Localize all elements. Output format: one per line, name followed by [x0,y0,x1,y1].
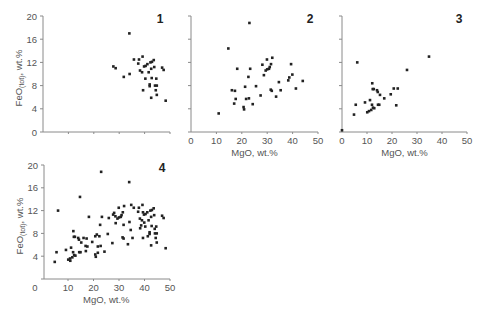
data-point [101,216,104,219]
data-point [142,211,145,214]
data-point [259,94,262,97]
data-point [162,69,165,72]
y-tick-label: 4 [33,251,38,262]
data-point [373,107,376,110]
data-point [155,232,158,235]
data-point [146,63,149,66]
data-point [263,74,266,77]
data-point [79,196,82,199]
data-point [70,246,73,249]
y-tick-label: 4 [32,103,37,114]
data-point [353,113,356,116]
data-point [162,217,165,220]
data-point [356,61,359,64]
data-point [78,238,81,241]
data-point [72,251,75,254]
x-tick-label: 0 [339,135,344,146]
data-point [94,255,97,258]
data-point [114,67,117,70]
x-tick-label: 10 [63,282,74,293]
data-point [94,235,97,238]
data-point [128,32,131,35]
scatter-chart-grid: 048121620FeO(tot), wt.%1 01020304050MgO,… [0,0,488,319]
data-point [127,243,130,246]
data-point [150,225,153,228]
data-point [150,216,153,219]
data-point [249,67,252,70]
data-point [65,249,68,252]
data-point [88,216,91,219]
data-point [97,245,100,248]
data-point [389,93,392,96]
data-point [369,99,372,102]
data-point [154,89,157,92]
data-point [148,233,151,236]
data-point [271,56,274,59]
panel-number: 1 [157,12,164,26]
y-tick-label: 0 [32,127,37,138]
data-point [141,71,144,74]
data-point [155,77,158,80]
data-point [234,98,237,101]
y-tick-label: 12 [27,205,38,216]
data-point [147,71,150,74]
data-point [55,251,58,254]
data-point [372,88,375,91]
y-tick-label: 8 [33,228,38,239]
data-point [371,103,374,106]
data-point [396,87,399,90]
data-point [114,215,117,218]
x-tick-label: 20 [237,135,248,146]
data-point [139,227,142,230]
y-tick-label: 20 [27,160,38,171]
data-point [268,66,271,69]
panel-number: 4 [159,161,166,175]
x-axis-label: MgO, wt.% [231,147,278,158]
data-point [142,237,145,240]
data-point [376,91,379,94]
data-point [129,229,132,232]
data-point [371,82,374,85]
data-point [122,237,125,240]
data-point [150,67,153,70]
data-point [91,241,94,244]
x-tick-label: 10 [362,135,373,146]
data-point [123,205,126,208]
data-point [255,85,258,88]
data-point [98,235,101,238]
data-point [131,237,134,240]
data-point [80,241,83,244]
data-point [138,206,141,209]
data-point [130,204,133,207]
data-point [242,106,245,109]
data-point [279,89,282,92]
data-point [128,221,131,224]
panel-1: 048121620FeO(tot), wt.%1 [13,11,170,138]
data-point [248,22,251,25]
data-point [138,58,141,61]
data-point [128,181,131,184]
data-point [370,109,373,112]
data-point [428,55,431,58]
data-point [94,253,97,256]
data-point [148,85,151,88]
data-point [132,206,135,209]
x-tick-label: 50 [165,282,176,293]
data-point [140,224,143,227]
data-point [133,58,136,61]
data-point [164,99,167,102]
data-point [85,237,88,240]
data-point [301,80,304,83]
y-tick-label: 20 [26,11,37,22]
x-tick-label: 30 [114,282,125,293]
data-point [364,101,367,104]
data-point [290,63,293,66]
data-point [120,214,123,217]
data-point [144,225,147,228]
data-point [247,76,250,79]
data-point [137,210,140,213]
data-point [392,87,395,90]
panel-3: 01020304050MgO, wt.%3 [339,12,472,158]
data-point [153,66,156,69]
data-point [278,81,281,84]
